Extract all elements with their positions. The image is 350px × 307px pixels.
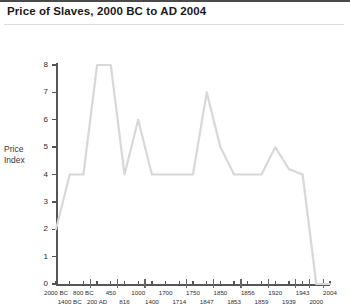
title-underline xyxy=(4,24,344,25)
price-index-line xyxy=(56,65,330,284)
page-title: Price of Slaves, 2000 BC to AD 2004 xyxy=(7,5,206,17)
series-line-chart xyxy=(0,26,350,307)
top-rule xyxy=(0,0,350,2)
chart-canvas: Price Index 012345678 2000 BC800 BC45010… xyxy=(0,26,350,307)
